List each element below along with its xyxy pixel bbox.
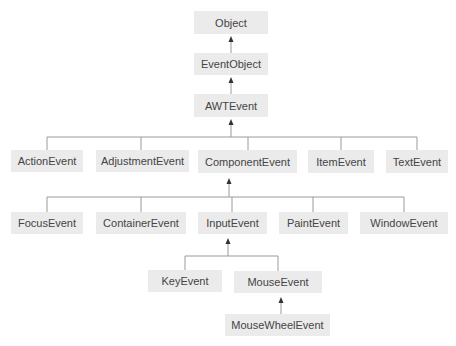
arrow-head-icon bbox=[229, 36, 234, 42]
node-text-event: TextEvent bbox=[386, 150, 448, 173]
node-input-event: InputEvent bbox=[198, 212, 267, 234]
node-action-event: ActionEvent bbox=[11, 150, 83, 172]
connector-lines bbox=[0, 0, 456, 346]
arrow-head-icon bbox=[226, 238, 231, 244]
node-component-event: ComponentEvent bbox=[198, 150, 297, 173]
class-hierarchy-diagram: Object EventObject AWTEvent ActionEvent … bbox=[0, 0, 456, 346]
node-object: Object bbox=[194, 11, 268, 34]
arrow-head-icon bbox=[229, 77, 234, 83]
node-item-event: ItemEvent bbox=[308, 150, 374, 173]
node-awt-event: AWTEvent bbox=[194, 94, 268, 117]
node-focus-event: FocusEvent bbox=[11, 212, 83, 234]
arrow-head-icon bbox=[279, 297, 284, 303]
node-window-event: WindowEvent bbox=[360, 212, 448, 234]
node-paint-event: PaintEvent bbox=[279, 212, 348, 234]
node-mouse-wheel-event: MouseWheelEvent bbox=[225, 314, 330, 336]
node-key-event: KeyEvent bbox=[148, 270, 222, 292]
arrow-head-icon bbox=[229, 119, 234, 125]
node-container-event: ContainerEvent bbox=[96, 212, 186, 234]
arrow-head-icon bbox=[227, 178, 232, 184]
node-mouse-event: MouseEvent bbox=[234, 271, 322, 293]
node-adjustment-event: AdjustmentEvent bbox=[96, 150, 189, 172]
node-event-object: EventObject bbox=[194, 53, 268, 75]
